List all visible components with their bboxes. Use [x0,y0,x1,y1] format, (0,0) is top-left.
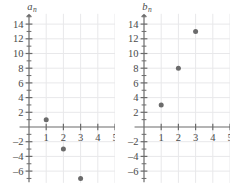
x-tick-label: 4 [95,132,101,143]
y-axis-arrow [141,14,147,17]
grid-lines [20,14,115,183]
y-tick-label: –4 [12,151,24,162]
scatter-chart-a: –6–4–2246810121412345ann [0,0,115,187]
y-tick-label: –2 [12,136,24,147]
chart-panel-a: –6–4–2246810121412345ann [0,0,115,187]
y-tick-labels: –6–4–22468101214 [127,19,139,177]
y-tick-label: 8 [18,63,23,74]
grid-lines [135,14,230,183]
x-tick-label: 1 [159,132,164,143]
y-tick-label: 8 [133,63,138,74]
y-axis-label: bn [142,1,152,14]
y-tick-label: 12 [128,33,139,44]
y-tick-label: 4 [18,92,24,103]
x-tick-label: 2 [61,132,66,143]
x-tick-labels: 12345 [159,132,230,143]
y-tick-label: –4 [127,151,139,162]
y-tick-label: 2 [18,107,23,118]
data-point[interactable] [159,102,164,107]
x-tick-label: 2 [176,132,181,143]
data-point[interactable] [78,176,83,181]
data-point[interactable] [44,117,49,122]
x-tick-label: 3 [193,132,198,143]
y-axis-label: an [27,1,37,14]
y-axis-arrow [26,14,32,17]
y-tick-label: –6 [12,166,24,177]
x-tick-label: 3 [78,132,83,143]
y-tick-label: 12 [13,33,24,44]
x-tick-labels: 12345 [44,132,115,143]
x-tick-label: 1 [44,132,49,143]
y-tick-label: 4 [133,92,139,103]
y-tick-label: 10 [128,48,139,59]
y-tick-label: –6 [127,166,139,177]
y-tick-label: 6 [133,78,138,89]
y-tick-label: 10 [13,48,24,59]
y-tick-label: 14 [13,19,24,30]
scatter-chart-b: –6–4–2246810121412345bnn [115,0,230,187]
x-tick-label: 5 [227,132,230,143]
y-tick-label: 6 [18,78,23,89]
data-point[interactable] [193,29,198,34]
data-point[interactable] [61,147,66,152]
y-tick-label: 2 [133,107,138,118]
sequence-scatter-figure: –6–4–2246810121412345ann –6–4–2246810121… [0,0,231,187]
y-tick-labels: –6–4–22468101214 [12,19,24,177]
y-tick-label: –2 [127,136,139,147]
chart-panel-b: –6–4–2246810121412345bnn [115,0,230,187]
y-axis-label-subscript: n [148,5,152,14]
y-axis-label-subscript: n [33,5,37,14]
x-tick-label: 4 [210,132,216,143]
y-tick-label: 14 [128,19,139,30]
data-point[interactable] [176,66,181,71]
